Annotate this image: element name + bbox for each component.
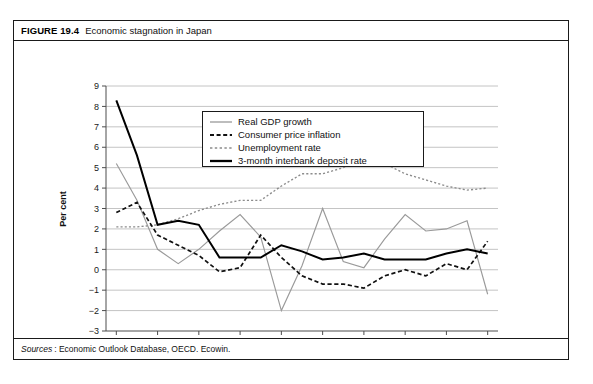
legend-label-cpi: Consumer price inflation <box>238 128 340 141</box>
y-axis-ticks: 9876543210−1−2−3 <box>89 81 106 336</box>
y-tick-label: −1 <box>89 285 99 295</box>
chart-plot-area: 9876543210−1−2−3 19901992199419961998200… <box>14 41 568 338</box>
legend-item-interbank-rate: 3-month interbank deposit rate <box>209 154 423 167</box>
legend-item-cpi: Consumer price inflation <box>209 128 423 141</box>
y-tick-label: 4 <box>94 183 99 193</box>
y-tick-label: 1 <box>94 245 99 255</box>
legend-swatch-gdp <box>209 117 233 126</box>
y-tick-label: 0 <box>94 265 99 275</box>
y-tick-label: 5 <box>94 163 99 173</box>
figure-header: FIGURE 19.4 Economic stagnation in Japan <box>14 21 568 41</box>
series-line-consumer-price-inflation <box>116 202 487 288</box>
y-tick-label: 7 <box>94 122 99 132</box>
legend-label-unemployment: Unemployment rate <box>238 141 321 154</box>
legend-item-unemployment: Unemployment rate <box>209 141 423 154</box>
y-tick-label: −2 <box>89 306 99 316</box>
legend-item-gdp: Real GDP growth <box>209 115 423 128</box>
legend-swatch-cpi <box>209 130 233 139</box>
series-line-unemployment-rate <box>116 160 487 227</box>
figure-number: FIGURE 19.4 <box>21 25 79 36</box>
y-tick-label: 6 <box>94 142 99 152</box>
figure-source-footer: Sources : Economic Outlook Database, OEC… <box>14 338 568 359</box>
source-label: Sources <box>21 344 52 354</box>
y-tick-label: 3 <box>94 204 99 214</box>
x-axis-ticks: 1990199219941996199820002002200420062008 <box>106 331 497 338</box>
series-line-real-gdp-growth <box>116 164 487 311</box>
chart-legend: Real GDP growth Consumer price inflation… <box>202 111 424 167</box>
figure-container: FIGURE 19.4 Economic stagnation in Japan… <box>13 20 569 360</box>
y-tick-label: −3 <box>89 326 99 336</box>
legend-swatch-interbank-rate <box>209 156 233 165</box>
y-tick-label: 2 <box>94 224 99 234</box>
y-axis-title: Per cent <box>58 191 68 227</box>
y-tick-label: 8 <box>94 102 99 112</box>
legend-label-interbank-rate: 3-month interbank deposit rate <box>238 154 367 167</box>
figure-title: Economic stagnation in Japan <box>85 25 212 36</box>
legend-label-gdp: Real GDP growth <box>238 115 312 128</box>
legend-swatch-unemployment <box>209 143 233 152</box>
y-tick-label: 9 <box>94 81 99 91</box>
source-text: : Economic Outlook Database, OECD. Ecowi… <box>54 344 230 354</box>
line-chart: 9876543210−1−2−3 19901992199419961998200… <box>14 41 568 338</box>
